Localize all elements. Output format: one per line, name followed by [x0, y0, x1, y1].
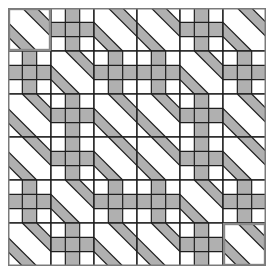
- path-horizontal: [223, 65, 266, 79]
- tile-diagonal-bands[interactable]: [137, 223, 180, 266]
- path-horizontal: [180, 237, 223, 251]
- path-horizontal: [94, 65, 137, 79]
- tile-cross[interactable]: [8, 51, 51, 94]
- tile-diagonal-bands[interactable]: [8, 137, 51, 180]
- tile-diagonal-bands[interactable]: [8, 223, 51, 266]
- tile-diagonal-bands[interactable]: [51, 51, 94, 94]
- tile-diagonal-bands[interactable]: [137, 8, 180, 51]
- path-horizontal: [180, 151, 223, 165]
- path-horizontal: [180, 22, 223, 36]
- path-horizontal: [137, 65, 180, 79]
- puzzle-grid: [8, 8, 266, 266]
- tile-cross[interactable]: [223, 51, 266, 94]
- path-horizontal: [8, 194, 51, 208]
- tile-cross[interactable]: [223, 180, 266, 223]
- tile-diagonal-bands[interactable]: [94, 137, 137, 180]
- tile-diagonal-bands[interactable]: [94, 8, 137, 51]
- path-horizontal: [137, 194, 180, 208]
- tile-diagonal-bands[interactable]: [137, 94, 180, 137]
- tile-cross[interactable]: [51, 8, 94, 51]
- tile-diagonal-bands[interactable]: [180, 180, 223, 223]
- tile-cross[interactable]: [137, 51, 180, 94]
- tile-diagonal-bands[interactable]: [180, 51, 223, 94]
- tile-diagonal-bands[interactable]: [223, 94, 266, 137]
- tile-cross[interactable]: [94, 180, 137, 223]
- path-horizontal: [51, 151, 94, 165]
- path-horizontal: [51, 22, 94, 36]
- tile-cross[interactable]: [94, 51, 137, 94]
- path-horizontal: [94, 194, 137, 208]
- path-horizontal: [223, 194, 266, 208]
- puzzle-board: [8, 8, 266, 266]
- path-horizontal: [180, 108, 223, 122]
- path-horizontal: [8, 65, 51, 79]
- tile-diagonal-bands[interactable]: [223, 8, 266, 51]
- path-horizontal: [51, 237, 94, 251]
- path-horizontal: [51, 108, 94, 122]
- tile-cross[interactable]: [8, 180, 51, 223]
- tile-diagonal-bands[interactable]: [94, 223, 137, 266]
- tile-cross[interactable]: [180, 223, 223, 266]
- tile-diagonal-bands[interactable]: [223, 223, 266, 266]
- tile-cross[interactable]: [180, 94, 223, 137]
- tile-diagonal-bands[interactable]: [51, 180, 94, 223]
- tile-cross[interactable]: [180, 137, 223, 180]
- tile-diagonal-bands[interactable]: [8, 8, 51, 51]
- tile-diagonal-bands[interactable]: [94, 94, 137, 137]
- tile-cross[interactable]: [180, 8, 223, 51]
- tile-cross[interactable]: [137, 180, 180, 223]
- tile-cross[interactable]: [51, 137, 94, 180]
- tile-diagonal-bands[interactable]: [223, 137, 266, 180]
- tile-diagonal-bands[interactable]: [8, 94, 51, 137]
- tile-diagonal-bands[interactable]: [137, 137, 180, 180]
- tile-cross[interactable]: [51, 94, 94, 137]
- tile-cross[interactable]: [51, 223, 94, 266]
